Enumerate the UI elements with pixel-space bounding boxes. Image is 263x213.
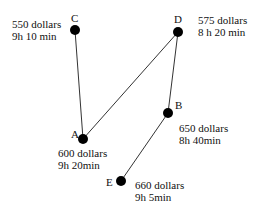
node-d-info: 575 dollars 8 h 20 min xyxy=(198,14,247,38)
node-c-label: C xyxy=(71,12,78,24)
node-b-price: 650 dollars xyxy=(179,122,228,134)
node-a-duration: 9h 20min xyxy=(58,159,107,171)
node-d-dot xyxy=(173,27,183,37)
node-c-dot xyxy=(70,25,80,35)
node-d-duration: 8 h 20 min xyxy=(198,26,247,38)
node-e-info: 660 dollars 9h 5min xyxy=(135,179,184,203)
node-a-info: 600 dollars 9h 20min xyxy=(58,119,107,171)
node-a-price: 600 dollars xyxy=(58,147,107,159)
node-e-duration: 9h 5min xyxy=(135,191,184,203)
node-c-duration: 9h 10 min xyxy=(12,30,61,42)
node-e-label: E xyxy=(106,176,113,188)
node-b-label: B xyxy=(175,99,182,111)
node-c-info: 550 dollars 9h 10 min xyxy=(12,18,61,42)
node-c-price: 550 dollars xyxy=(12,18,61,30)
graph-diagram: C 550 dollars 9h 10 min D 575 dollars 8 … xyxy=(0,0,263,213)
node-e-price: 660 dollars xyxy=(135,179,184,191)
node-b-info: 650 dollars 8h 40min xyxy=(179,122,228,146)
node-d-price: 575 dollars xyxy=(198,14,247,26)
node-e-dot xyxy=(116,176,126,186)
node-b-duration: 8h 40min xyxy=(179,134,228,146)
node-b-dot xyxy=(163,108,173,118)
edge-b-e xyxy=(121,113,168,181)
node-d-label: D xyxy=(174,13,182,25)
